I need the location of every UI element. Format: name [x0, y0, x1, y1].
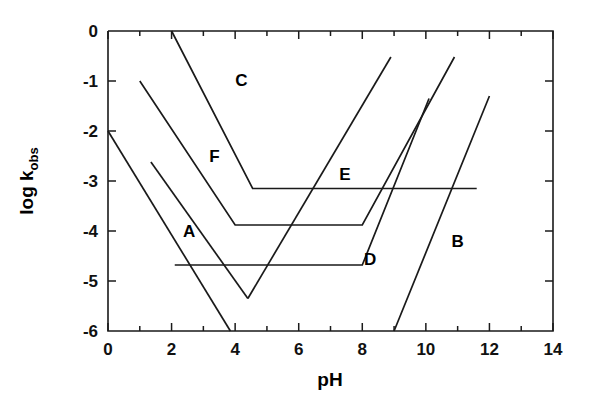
x-tick-label-8: 8: [358, 340, 367, 359]
y-tick-label--4: -4: [83, 222, 99, 241]
curve-label-D: D: [364, 250, 376, 269]
x-tick-label-4: 4: [230, 340, 240, 359]
svg-text:log kobs: log kobs: [16, 147, 41, 214]
x-axis-title: pH: [317, 369, 342, 390]
y-axis-ticks: [108, 81, 553, 281]
y-axis-title-main: log k: [16, 170, 37, 215]
y-tick-label--2: -2: [83, 122, 98, 141]
svg-text:pH: pH: [317, 369, 342, 390]
curve-label-C: C: [235, 71, 247, 90]
curve-A-descending-extra: [151, 162, 248, 299]
x-tick-label-14: 14: [544, 340, 563, 359]
x-tick-label-0: 0: [103, 340, 112, 359]
curve-label-E: E: [339, 165, 350, 184]
y-tick-label--3: -3: [83, 172, 98, 191]
y-tick-label--5: -5: [83, 272, 98, 291]
chart-figure: 02468101214 0-1-2-3-4-5-6 ABCDEF pH log …: [0, 0, 593, 401]
x-tick-label-10: 10: [416, 340, 435, 359]
x-axis-tick-labels: 02468101214: [103, 340, 563, 359]
plot-frame: [108, 31, 553, 331]
y-axis-tick-labels: 0-1-2-3-4-5-6: [83, 22, 99, 341]
curve-D: [175, 99, 429, 266]
curve-B: [394, 96, 489, 331]
chart-svg: 02468101214 0-1-2-3-4-5-6 ABCDEF pH log …: [0, 0, 593, 401]
x-tick-label-2: 2: [167, 340, 176, 359]
y-tick-label--1: -1: [83, 72, 98, 91]
curve-label-F: F: [209, 147, 219, 166]
x-tick-label-6: 6: [294, 340, 303, 359]
curve-label-B: B: [452, 232, 464, 251]
x-tick-label-12: 12: [480, 340, 499, 359]
curve-F: [140, 57, 455, 225]
y-axis-title-sub: obs: [26, 147, 41, 170]
y-axis-title: log kobs: [16, 147, 41, 214]
x-axis-ticks: [108, 31, 553, 331]
y-tick-label-0: 0: [89, 22, 98, 41]
data-curves: [108, 31, 489, 331]
y-tick-label--6: -6: [83, 322, 98, 341]
curve-label-A: A: [183, 222, 195, 241]
